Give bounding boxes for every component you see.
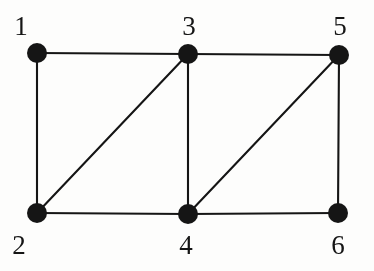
graph-node [27,203,47,223]
node-label: 2 [5,232,33,259]
graph-edge [37,53,188,54]
node-label: 6 [324,232,352,259]
graph-node [27,43,47,63]
node-label: 3 [175,13,203,40]
graph-edge [37,213,188,214]
node-label: 4 [172,232,200,259]
graph-node [329,45,349,65]
node-label: 5 [326,13,354,40]
graph-figure: 123456 [0,0,374,271]
graph-node [178,44,198,64]
node-label: 1 [7,13,35,40]
graph-edge [188,213,338,214]
graph-edge [188,55,339,214]
graph-node [328,203,348,223]
edge-layer [37,53,339,214]
graph-edge [37,54,188,213]
graph-edge [188,54,339,55]
graph-node [178,204,198,224]
graph-edge [338,55,339,213]
